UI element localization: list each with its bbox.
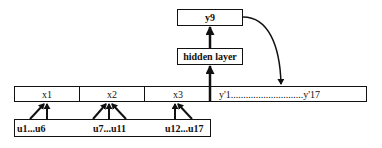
input-layer: x1 x2 x3 y'1............................… [14,86,367,102]
source-group-u12-u17: u12...u17 [165,123,204,134]
context-units-label: y'1.............................y'17 [211,87,368,101]
arrow-u-to-x2 [93,104,126,119]
source-group-u7-u11: u7...u11 [93,123,126,134]
arrow-u-to-x1 [30,104,47,119]
source-layer: u1...u6 u7...u11 u12...u17 [14,119,211,137]
arrow-u-to-x3 [175,104,192,119]
output-node-y9: y9 [177,9,243,26]
input-cell-x2: x2 [80,87,145,101]
hidden-layer-node: hidden layer [177,48,243,65]
input-cell-x3: x3 [145,87,211,101]
hidden-layer-label: hidden layer [178,49,242,64]
input-cell-x1: x1 [15,87,80,101]
arrow-y9-to-context [243,17,281,84]
output-node-label: y9 [178,10,242,25]
source-group-u1-u6: u1...u6 [17,123,46,134]
